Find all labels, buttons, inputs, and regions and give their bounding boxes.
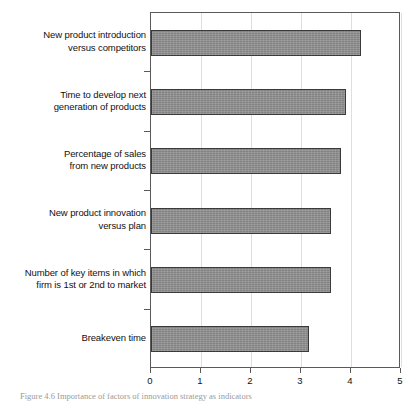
category-label-line: Percentage of sales — [0, 148, 146, 161]
bar-series — [151, 13, 399, 367]
value-tick-2 — [250, 368, 251, 373]
value-tick-label-5: 5 — [390, 375, 410, 387]
category-label-line: Number of key items in which — [0, 267, 146, 280]
figure-bar-chart: New product introductionversus competito… — [0, 0, 418, 403]
value-tick-label-1: 1 — [190, 375, 210, 387]
figure-caption: Figure 4.6 Importance of factors of inno… — [20, 391, 410, 402]
category-axis-labels: New product introductionversus competito… — [0, 12, 146, 368]
value-tick-0 — [150, 368, 151, 373]
bar — [151, 267, 331, 293]
bar — [151, 89, 346, 115]
value-tick-label-3: 3 — [290, 375, 310, 387]
category-label-line: Time to develop next — [0, 89, 146, 102]
category-label: New product innovationversus plan — [0, 207, 146, 232]
category-label-line: versus competitors — [0, 42, 146, 55]
category-label-line: New product innovation — [0, 207, 146, 220]
value-tick-5 — [400, 368, 401, 373]
value-tick-label-2: 2 — [240, 375, 260, 387]
category-label: Breakeven time — [0, 332, 146, 345]
category-label-line: Breakeven time — [0, 332, 146, 345]
bar — [151, 30, 361, 56]
category-label-line: versus plan — [0, 220, 146, 233]
bar — [151, 326, 309, 352]
category-label: Percentage of salesfrom new products — [0, 148, 146, 173]
category-label-line: from new products — [0, 160, 146, 173]
bar — [151, 148, 341, 174]
value-tick-4 — [350, 368, 351, 373]
value-tick-label-4: 4 — [340, 375, 360, 387]
value-axis-ticks — [150, 368, 400, 374]
category-label: Number of key items in whichfirm is 1st … — [0, 267, 146, 292]
value-tick-3 — [300, 368, 301, 373]
value-tick-1 — [200, 368, 201, 373]
category-label: New product introductionversus competito… — [0, 29, 146, 54]
bar — [151, 208, 331, 234]
value-axis-tick-labels: 012345 — [150, 375, 400, 389]
gridline-5 — [401, 13, 402, 367]
category-label: Time to develop nextgeneration of produc… — [0, 89, 146, 114]
category-label-line: New product introduction — [0, 29, 146, 42]
category-label-line: firm is 1st or 2nd to market — [0, 279, 146, 292]
category-label-line: generation of products — [0, 101, 146, 114]
plot-area — [150, 12, 400, 368]
value-tick-label-0: 0 — [140, 375, 160, 387]
